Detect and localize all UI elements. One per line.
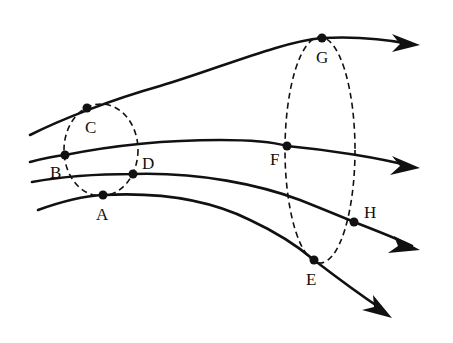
point-h [350, 218, 359, 227]
label-b: B [50, 163, 61, 182]
arrowhead-line-1 [392, 34, 420, 52]
point-g [318, 34, 327, 43]
point-a [99, 191, 108, 200]
point-e [310, 256, 319, 265]
point-b [61, 151, 70, 160]
point-d [129, 170, 138, 179]
field-line-3 [32, 174, 412, 246]
label-e: E [306, 270, 316, 289]
label-g: G [316, 48, 328, 67]
label-h: H [364, 203, 376, 222]
label-f: F [270, 150, 279, 169]
field-line-2 [30, 140, 410, 166]
label-a: A [96, 205, 109, 224]
label-c: C [85, 118, 96, 137]
point-f [283, 142, 292, 151]
arrowhead-line-2 [390, 156, 420, 175]
point-c [83, 104, 92, 113]
field-line-diagram: C B D A G F H E [0, 0, 453, 343]
label-d: D [142, 154, 154, 173]
